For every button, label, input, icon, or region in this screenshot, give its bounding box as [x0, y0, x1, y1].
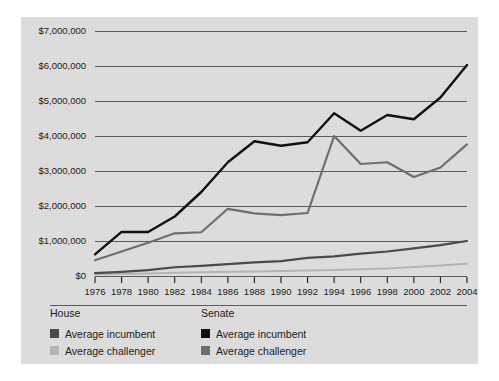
legend-swatch	[50, 329, 59, 338]
legend-entry-label: Average challenger	[65, 345, 156, 357]
x-axis-tick-label: 1978	[111, 286, 132, 297]
y-axis-tick-label: $1,000,000	[38, 235, 86, 246]
y-axis-tick-label: $3,000,000	[38, 165, 86, 176]
y-axis-tick-labels: $0$1,000,000$2,000,000$3,000,000$4,000,0…	[38, 25, 86, 281]
x-axis-tick-label: 1988	[244, 286, 265, 297]
legend-entry-label: Average incumbent	[216, 328, 306, 340]
x-axis-tick-label: 1992	[297, 286, 318, 297]
series-line	[95, 136, 467, 260]
line-chart: $0$1,000,000$2,000,000$3,000,000$4,000,0…	[21, 17, 478, 364]
y-axis-tick-label: $0	[75, 270, 86, 281]
legend-swatch	[201, 346, 210, 355]
x-axis-tick-label: 1976	[84, 286, 105, 297]
y-axis-tick-label: $7,000,000	[38, 25, 86, 36]
x-axis-tick-label: 1986	[217, 286, 238, 297]
series-line	[95, 241, 467, 273]
x-axis-tick-label: 1980	[138, 286, 159, 297]
x-axis-tick-label: 1996	[350, 286, 371, 297]
x-axis-tick-label: 2004	[456, 286, 477, 297]
y-axis-tick-label: $6,000,000	[38, 60, 86, 71]
series-line-group	[95, 65, 467, 274]
chart-panel: $0$1,000,000$2,000,000$3,000,000$4,000,0…	[21, 17, 478, 364]
legend-group-title: House	[50, 307, 81, 319]
legend-group-title: Senate	[201, 307, 234, 319]
series-line	[95, 65, 467, 254]
gridline-group	[95, 31, 467, 276]
x-axis-tick-label: 1984	[191, 286, 212, 297]
legend-swatch	[201, 329, 210, 338]
y-axis-tick-label: $2,000,000	[38, 200, 86, 211]
chart-legend: HouseAverage incumbentAverage challenger…	[50, 305, 467, 357]
chart-figure: $0$1,000,000$2,000,000$3,000,000$4,000,0…	[0, 0, 499, 381]
x-axis-tick-label: 1990	[270, 286, 291, 297]
x-axis-tick-label: 2002	[430, 286, 451, 297]
legend-entry-label: Average challenger	[216, 345, 307, 357]
x-axis-tick-label: 1994	[324, 286, 345, 297]
x-axis-tick-labels: 1976197819801982198419861988199019921994…	[84, 286, 477, 297]
x-axis-tick-label: 2000	[403, 286, 424, 297]
y-axis-tick-label: $5,000,000	[38, 95, 86, 106]
legend-entry-label: Average incumbent	[65, 328, 155, 340]
x-axis-tick-label: 1998	[377, 286, 398, 297]
y-axis-tick-label: $4,000,000	[38, 130, 86, 141]
x-axis-tick-label: 1982	[164, 286, 185, 297]
x-axis-tickmarks	[95, 277, 467, 283]
legend-swatch	[50, 346, 59, 355]
